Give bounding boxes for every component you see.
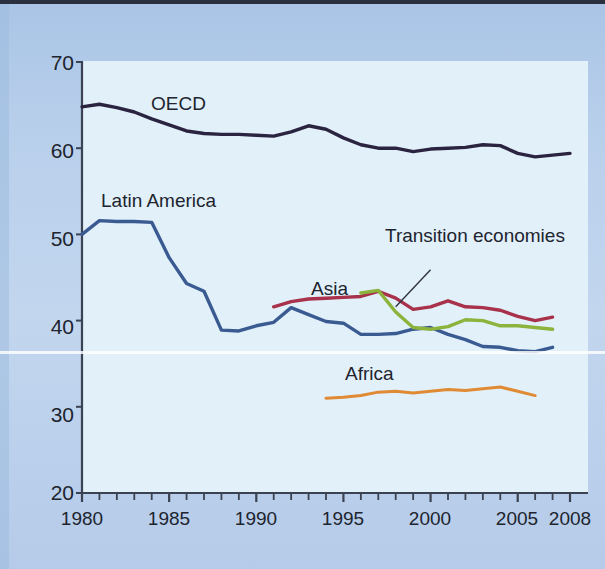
series-label-africa: Africa (345, 363, 394, 385)
x-tick-label-1985: 1985 (134, 508, 204, 530)
y-tick-label-50: 50 (28, 227, 74, 251)
series-label-latin-america: Latin America (101, 190, 216, 212)
series-label-asia: Asia (311, 278, 348, 300)
y-tick-label-20: 20 (28, 481, 74, 505)
chart-figure: 70 60 50 40 30 20 1980 1985 1990 1995 20… (0, 0, 605, 569)
series-label-oecd: OECD (151, 93, 206, 115)
series-label-transition-economies: Transition economies (385, 225, 565, 247)
x-tick-label-2000: 2000 (395, 508, 465, 530)
y-tick-label-70: 70 (28, 51, 74, 75)
y-tick-label-60: 60 (28, 139, 74, 163)
x-tick-label-1990: 1990 (221, 508, 291, 530)
x-tick-label-1995: 1995 (308, 508, 378, 530)
figure-top-border (0, 0, 605, 4)
y-tick-label-40: 40 (28, 315, 74, 339)
x-tick-label-1980: 1980 (47, 508, 117, 530)
y-tick-label-30: 30 (28, 403, 74, 427)
x-tick-label-2008: 2008 (535, 508, 605, 530)
line-chart-svg (0, 0, 605, 569)
